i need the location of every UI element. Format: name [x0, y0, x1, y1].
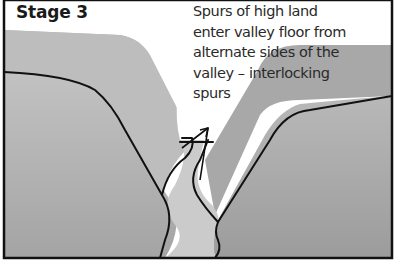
caption-line: enter valley floor from [193, 22, 393, 43]
caption-line: valley – interlocking [193, 63, 393, 84]
caption-line: Spurs of high land [193, 1, 393, 22]
caption: Spurs of high land enter valley floor fr… [193, 1, 393, 104]
stage-title: Stage 3 [16, 2, 88, 22]
interlocking-spurs-diagram: Stage 3 Spurs of high land enter valley … [0, 0, 407, 271]
caption-line: alternate sides of the [193, 42, 393, 63]
caption-line: spurs [193, 83, 393, 104]
